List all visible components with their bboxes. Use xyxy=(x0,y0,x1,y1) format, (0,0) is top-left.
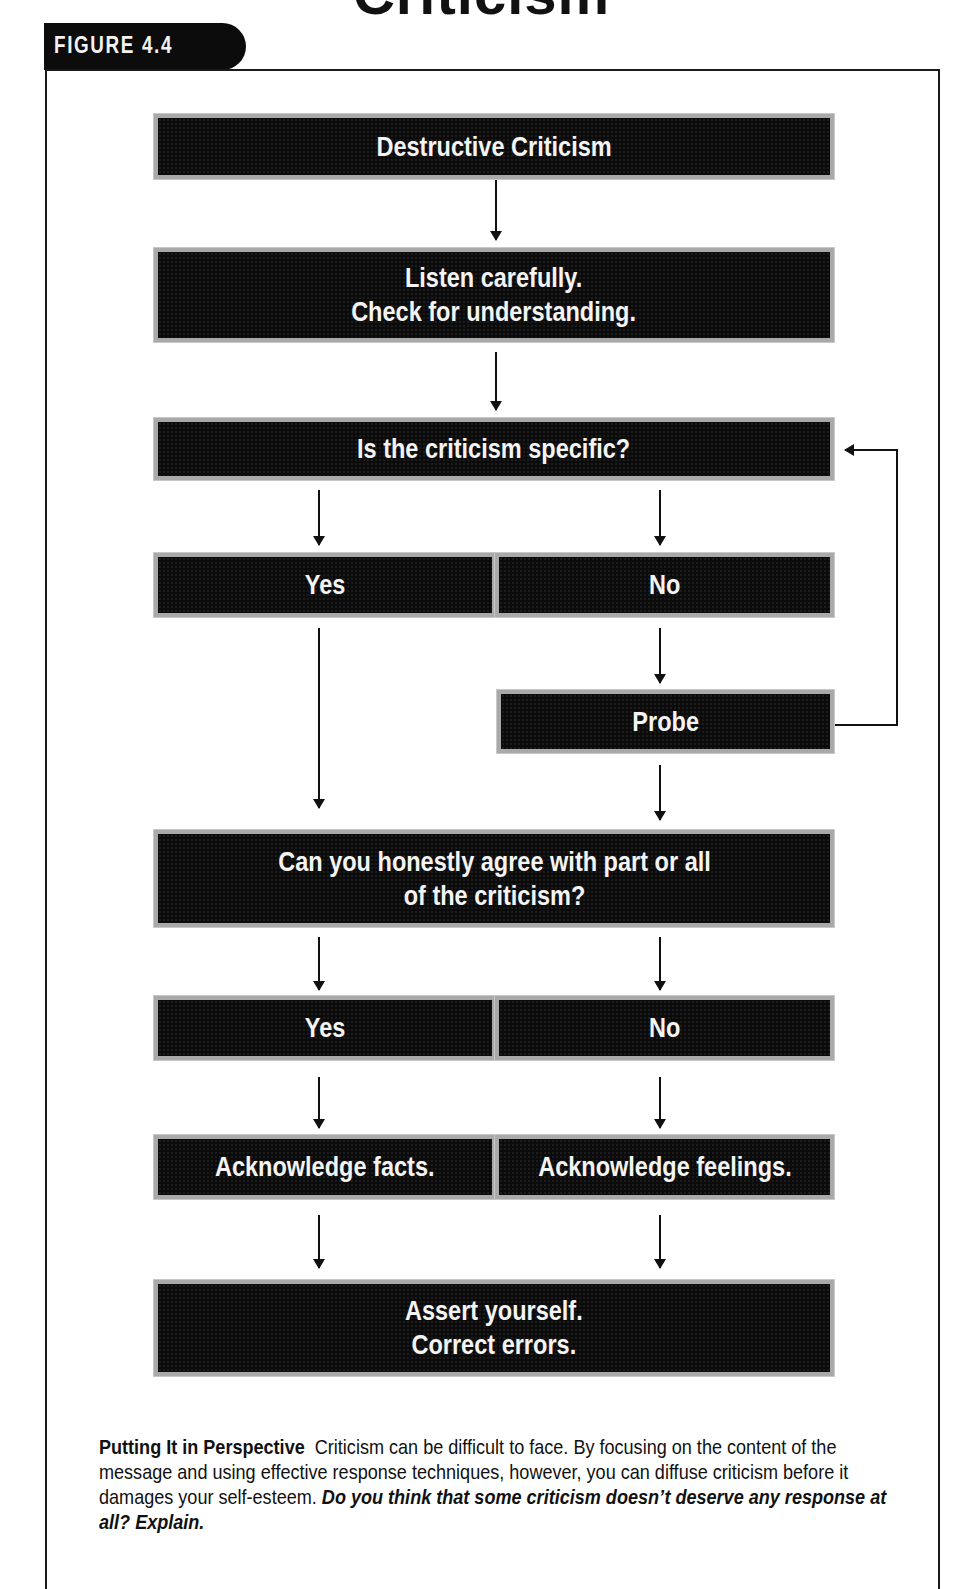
node-listen-carefully: Listen carefully. Check for understandin… xyxy=(154,248,834,342)
node-label: Acknowledge feelings. xyxy=(538,1150,792,1184)
node-label: Yes xyxy=(305,1011,346,1045)
node-acknowledge-feelings: Acknowledge feelings. xyxy=(495,1135,834,1199)
node-label: No xyxy=(649,1011,680,1045)
node-can-you-agree: Can you honestly agree with part or all … xyxy=(154,830,834,927)
node-label: Is the criticism specific? xyxy=(357,432,630,466)
node-acknowledge-facts: Acknowledge facts. xyxy=(154,1135,496,1199)
node-destructive-criticism: Destructive Criticism xyxy=(154,114,834,179)
node-label: Acknowledge facts. xyxy=(215,1150,435,1184)
node-assert-yourself: Assert yourself. Correct errors. xyxy=(154,1280,834,1376)
node-agree-no: No xyxy=(495,996,834,1060)
figure-caption: Putting It in Perspective Criticism can … xyxy=(99,1434,899,1534)
node-label: Yes xyxy=(305,568,346,602)
arrow-probe-loop-to-specific xyxy=(832,450,897,725)
node-label: Probe xyxy=(632,705,699,739)
caption-heading: Putting It in Perspective xyxy=(99,1435,305,1458)
node-specific-yes: Yes xyxy=(154,553,496,617)
node-is-criticism-specific: Is the criticism specific? xyxy=(154,418,834,480)
node-label: Can you honestly agree with part or all … xyxy=(278,845,711,913)
node-specific-no: No xyxy=(495,553,834,617)
node-label: Listen carefully. Check for understandin… xyxy=(352,261,637,329)
node-probe: Probe xyxy=(497,690,834,753)
node-label: Assert yourself. Correct errors. xyxy=(405,1294,583,1362)
node-agree-yes: Yes xyxy=(154,996,496,1060)
node-label: No xyxy=(649,568,680,602)
node-label: Destructive Criticism xyxy=(376,130,611,164)
